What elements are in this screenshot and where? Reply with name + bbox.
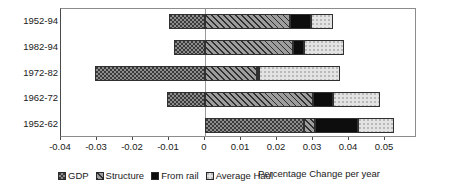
average-haul-swatch <box>206 172 214 180</box>
x-axis-tick-5 <box>240 137 241 140</box>
bar-segment-structure-1982-94[interactable] <box>205 40 293 55</box>
bar-1982-94[interactable] <box>61 40 415 55</box>
bar-segment-average-haul-1972-82[interactable] <box>259 66 340 81</box>
x-axis-tick-1 <box>96 137 97 140</box>
bar-segment-structure-1972-82[interactable] <box>205 66 257 81</box>
legend-item-from-rail[interactable]: From rail <box>151 170 198 181</box>
legend-item-gdp[interactable]: GDP <box>58 170 89 181</box>
bar-segment-gdp-1952-94[interactable] <box>169 14 205 29</box>
x-axis-label-8: 0.04 <box>339 141 358 152</box>
x-axis-label-5: 0.01 <box>231 141 250 152</box>
bar-1972-82[interactable] <box>61 66 415 81</box>
bar-segment-average-haul-1982-94[interactable] <box>304 40 344 55</box>
bar-segment-from-rail-1952-62[interactable] <box>315 118 358 133</box>
y-axis-label-1982-94: 1982-94 <box>2 42 58 52</box>
y-axis-label-1972-82: 1972-82 <box>2 68 58 78</box>
gdp-swatch <box>58 172 66 180</box>
x-axis-title: Percentage Change per year <box>258 168 380 179</box>
x-axis-label-9: 0.05 <box>375 141 394 152</box>
bar-segment-gdp-1982-94[interactable] <box>174 40 205 55</box>
bar-segment-structure-1962-72[interactable] <box>205 92 313 107</box>
bar-segment-average-haul-1962-72[interactable] <box>333 92 380 107</box>
bar-segment-gdp-1952-62[interactable] <box>205 118 304 133</box>
from-rail-swatch <box>151 172 159 180</box>
legend-item-structure[interactable]: Structure <box>96 170 145 181</box>
legend-label-from-rail: From rail <box>161 170 198 181</box>
chart-canvas: 1952-941982-941972-821962-721952-62 -0.0… <box>0 0 460 193</box>
bar-segment-average-haul-1952-94[interactable] <box>311 14 333 29</box>
bar-1952-62[interactable] <box>61 118 415 133</box>
legend-label-average-haul: Average Haul <box>216 170 273 181</box>
bar-1952-94[interactable] <box>61 14 415 29</box>
x-axis-label-1: -0.03 <box>85 141 107 152</box>
bar-segment-average-haul-1952-62[interactable] <box>358 118 394 133</box>
x-axis-tick-0 <box>60 137 61 140</box>
y-axis-label-1952-94: 1952-94 <box>2 16 58 26</box>
x-axis-label-3: -0.01 <box>157 141 179 152</box>
x-axis-tick-9 <box>384 137 385 140</box>
x-axis-tick-2 <box>132 137 133 140</box>
x-axis-label-2: -0.02 <box>121 141 143 152</box>
bar-segment-gdp-1972-82[interactable] <box>95 66 205 81</box>
x-axis-tick-7 <box>312 137 313 140</box>
legend-label-structure: Structure <box>106 170 145 181</box>
bar-segment-gdp-1962-72[interactable] <box>167 92 205 107</box>
x-axis-tick-3 <box>168 137 169 140</box>
x-axis-label-6: 0.02 <box>267 141 286 152</box>
bar-segment-structure-1952-62[interactable] <box>304 118 315 133</box>
x-axis-tick-8 <box>348 137 349 140</box>
y-axis-label-1952-62: 1952-62 <box>2 119 58 129</box>
bar-segment-from-rail-1972-82[interactable] <box>257 66 259 81</box>
x-axis-tick-4 <box>204 137 205 140</box>
x-axis-label-4: 0 <box>201 141 206 152</box>
x-axis-label-0: -0.04 <box>49 141 71 152</box>
y-axis-category-labels: 1952-941982-941972-821962-721952-62 <box>0 8 58 137</box>
legend-item-average-haul[interactable]: Average Haul <box>206 170 273 181</box>
x-axis-label-7: 0.03 <box>303 141 322 152</box>
bar-segment-from-rail-1962-72[interactable] <box>313 92 333 107</box>
bar-segment-structure-1952-94[interactable] <box>205 14 290 29</box>
structure-swatch <box>96 172 104 180</box>
bar-segment-from-rail-1982-94[interactable] <box>293 40 304 55</box>
x-axis: -0.04-0.03-0.02-0.0100.010.020.030.040.0… <box>60 137 416 155</box>
plot-area <box>60 8 416 137</box>
chart-legend: GDPStructureFrom railAverage Haul <box>58 170 273 181</box>
bar-1962-72[interactable] <box>61 92 415 107</box>
legend-label-gdp: GDP <box>68 170 89 181</box>
bar-segment-from-rail-1952-94[interactable] <box>290 14 312 29</box>
x-axis-tick-6 <box>276 137 277 140</box>
y-axis-label-1962-72: 1962-72 <box>2 93 58 103</box>
